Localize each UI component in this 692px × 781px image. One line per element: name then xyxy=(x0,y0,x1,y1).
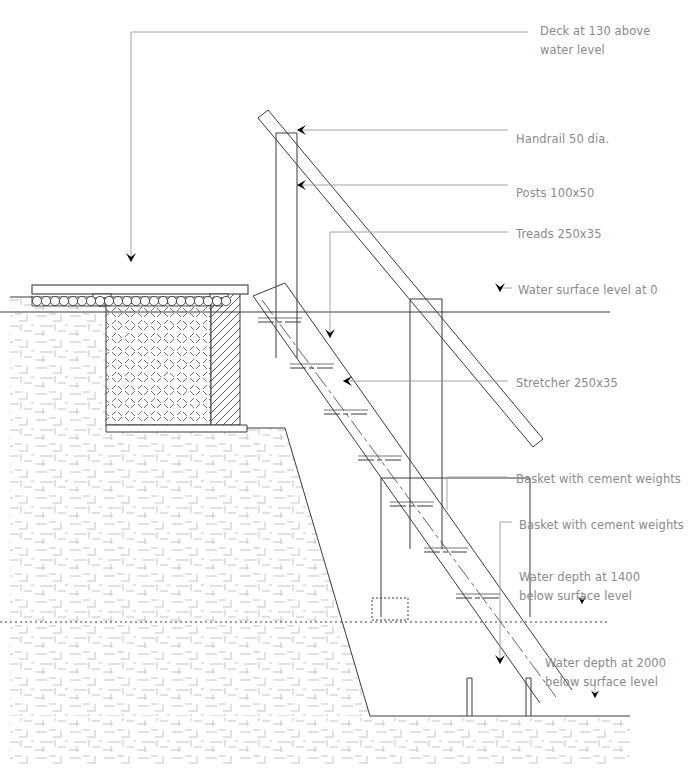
abutment-block xyxy=(106,293,247,432)
basket-weight-box xyxy=(372,598,408,620)
handrail xyxy=(258,110,543,447)
label-water-depth-1400: Water depth at 1400 below surface level xyxy=(519,568,640,606)
label-water-surface: Water surface level at 0 xyxy=(518,281,658,300)
basket-upper xyxy=(381,478,530,617)
drawing-canvas: Deck at 130 above water level Handrail 5… xyxy=(0,0,692,781)
label-handrail: Handrail 50 dia. xyxy=(516,130,609,149)
label-posts: Posts 100x50 xyxy=(516,184,594,203)
label-basket-lower: Basket with cement weights xyxy=(519,516,684,535)
basket-feet xyxy=(467,678,531,716)
label-water-depth-2000: Water depth at 2000 below surface level xyxy=(545,654,666,692)
label-stretcher: Stretcher 250x35 xyxy=(516,374,618,393)
label-deck: Deck at 130 above water level xyxy=(540,22,650,60)
label-treads: Treads 250x35 xyxy=(516,225,602,244)
label-basket-upper: Basket with cement weights xyxy=(516,470,681,489)
